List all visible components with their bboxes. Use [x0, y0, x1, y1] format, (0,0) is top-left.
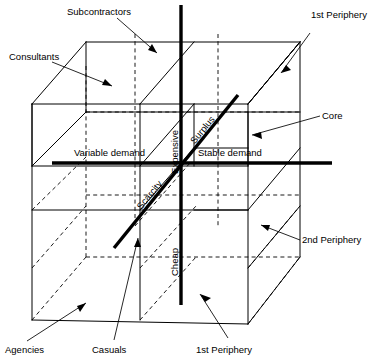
callout-leaders-group [27, 18, 320, 341]
axis-label-expensive: Expensive [169, 130, 180, 174]
cube-diagram-svg: Expensive Cheap Variable demand Stable d… [0, 0, 378, 363]
leader-head-first-periphery-top [281, 65, 291, 73]
leader-head-subcontractors [148, 44, 157, 53]
callout-label-consultants: Consultants [9, 51, 59, 62]
leader-core [252, 116, 320, 135]
hidden-edge-depth-c [32, 206, 86, 268]
axis-label-variable-demand: Variable demand [74, 147, 145, 158]
leader-head-core [252, 132, 262, 139]
hidden-edge-depth-a [32, 157, 86, 210]
edge-top-division-a [140, 42, 194, 104]
leader-head-second-periphery [261, 225, 270, 231]
leader-head-consultants [102, 79, 112, 86]
callout-label-first-periphery-bottom: 1st Periphery [196, 344, 252, 355]
leader-consultants [52, 62, 112, 86]
leader-head-first-periphery-bottom [200, 294, 211, 302]
diagram-page: Expensive Cheap Variable demand Stable d… [0, 0, 378, 363]
edge-front-bottom [32, 320, 248, 324]
hidden-edges-group [32, 34, 300, 324]
edge-right-top-receding [248, 42, 300, 104]
callout-labels-group: Subcontractors 1st Periphery Consultants… [5, 6, 367, 355]
leader-agencies [27, 303, 86, 341]
callout-label-first-periphery-top-right: 1st Periphery [311, 9, 367, 20]
axis-label-stable-demand: Stable demand [198, 147, 262, 158]
hidden-edge-depth-b [32, 257, 86, 320]
hidden-edge-depth-e [140, 206, 196, 268]
callout-label-agencies: Agencies [5, 344, 44, 355]
leader-casuals [114, 238, 138, 340]
leader-head-agencies [77, 303, 86, 312]
callout-label-second-periphery: 2nd Periphery [302, 234, 361, 245]
callout-label-subcontractors: Subcontractors [67, 6, 131, 17]
callout-label-core: Core [322, 110, 343, 121]
edge-right-bottom-receding [248, 257, 300, 324]
hidden-edge-depth-d [140, 257, 196, 320]
callout-label-casuals: Casuals [92, 344, 127, 355]
axis-label-cheap: Cheap [169, 248, 180, 276]
